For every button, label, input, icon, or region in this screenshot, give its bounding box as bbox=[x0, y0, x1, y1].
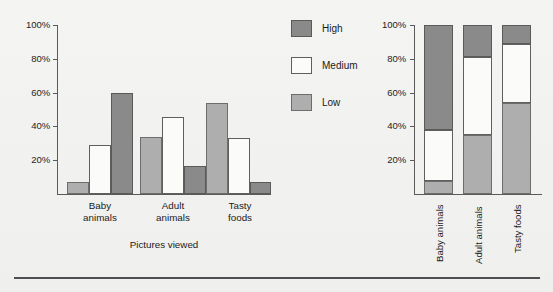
bar-medium-baby-animals bbox=[89, 145, 111, 194]
y-axis-line-right bbox=[414, 25, 415, 194]
y-tick-label: 60% bbox=[10, 88, 50, 98]
y-tick-label: 60% bbox=[368, 88, 406, 98]
y-tick-mark bbox=[410, 126, 414, 127]
y-axis-line-left bbox=[57, 25, 58, 194]
high-swatch-icon bbox=[291, 20, 312, 37]
stack-low-baby-animals bbox=[424, 181, 453, 194]
stack-low-adult-animals bbox=[463, 135, 492, 194]
y-tick-label: 80% bbox=[10, 54, 50, 64]
stack-high-baby-animals bbox=[424, 25, 453, 130]
y-tick-label: 100% bbox=[368, 20, 406, 30]
y-tick-mark bbox=[53, 126, 57, 127]
y-tick-mark bbox=[410, 25, 414, 26]
y-tick-label: 20% bbox=[368, 155, 406, 165]
low-swatch-icon bbox=[291, 94, 312, 111]
y-tick-mark bbox=[410, 59, 414, 60]
x-category-label-baby-animals: Baby animals bbox=[434, 204, 445, 262]
x-axis-line-right bbox=[414, 194, 542, 195]
figure-canvas: 100% 80% 60% 40% 20% Baby animals Adult … bbox=[0, 0, 553, 292]
x-axis-line-left bbox=[57, 194, 271, 195]
x-axis-title: Pictures viewed bbox=[57, 239, 271, 250]
bar-low-baby-animals bbox=[67, 182, 89, 194]
medium-swatch-icon bbox=[291, 57, 312, 74]
y-tick-mark bbox=[410, 93, 414, 94]
y-tick-label: 40% bbox=[10, 121, 50, 131]
stack-medium-baby-animals bbox=[424, 130, 453, 181]
stack-high-adult-animals bbox=[463, 25, 492, 57]
y-tick-label: 40% bbox=[368, 121, 406, 131]
bar-high-baby-animals bbox=[111, 93, 133, 194]
x-category-label-tasty-foods: Tasty foods bbox=[512, 204, 523, 253]
x-category-label-adult-animals: Adult animals bbox=[473, 206, 484, 264]
stack-medium-tasty-foods bbox=[502, 44, 531, 103]
bar-medium-adult-animals bbox=[162, 117, 184, 194]
y-tick-label: 100% bbox=[10, 20, 50, 30]
stacked-bar-chart: 100% 80% 60% 40% 20% Baby animals Adult … bbox=[380, 0, 553, 292]
x-category-label-tasty-foods: Tasty foods bbox=[202, 200, 278, 223]
stack-high-tasty-foods bbox=[502, 25, 531, 44]
legend-label-low: Low bbox=[322, 96, 340, 109]
bar-low-tasty-foods bbox=[206, 103, 228, 194]
stack-medium-adult-animals bbox=[463, 57, 492, 135]
x-category-label-baby-animals: Baby animals bbox=[62, 200, 138, 223]
legend-label-medium: Medium bbox=[322, 59, 358, 72]
y-tick-mark bbox=[53, 59, 57, 60]
y-tick-label: 20% bbox=[10, 155, 50, 165]
bar-low-adult-animals bbox=[140, 137, 162, 194]
x-category-label-adult-animals: Adult animals bbox=[135, 200, 211, 223]
grouped-bar-chart: 100% 80% 60% 40% 20% Baby animals Adult … bbox=[0, 0, 290, 270]
legend-label-high: High bbox=[322, 22, 343, 35]
bar-high-adult-animals bbox=[184, 166, 206, 194]
bar-high-tasty-foods bbox=[250, 182, 271, 194]
bar-medium-tasty-foods bbox=[228, 138, 250, 194]
y-tick-mark bbox=[410, 160, 414, 161]
y-tick-mark bbox=[53, 93, 57, 94]
y-tick-label: 80% bbox=[368, 54, 406, 64]
y-tick-mark bbox=[53, 160, 57, 161]
y-tick-mark bbox=[53, 25, 57, 26]
bottom-divider-rule bbox=[14, 277, 540, 279]
stack-low-tasty-foods bbox=[502, 103, 531, 194]
